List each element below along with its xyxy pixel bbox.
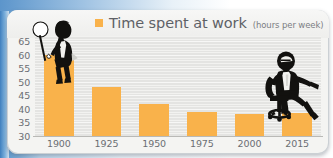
y-axis-tick-label: 65 <box>18 36 30 47</box>
x-axis-tick-label: 2000 <box>238 138 262 149</box>
seated-man-with-lamp-icon <box>31 17 93 93</box>
legend-units: (hours per week) <box>253 20 324 30</box>
y-axis-tick-label: 55 <box>18 63 30 74</box>
businessman-in-office-chair-icon <box>259 50 327 126</box>
x-axis-line <box>33 136 323 137</box>
x-axis-tick-label: 1925 <box>95 138 119 149</box>
y-axis-tick-label: 50 <box>18 76 30 87</box>
x-axis: 190019251950197520002015 <box>35 138 321 154</box>
bar-1975 <box>187 112 217 136</box>
y-axis-tick-label: 35 <box>18 117 30 128</box>
y-axis: 3035404550556065 <box>7 36 33 136</box>
bar-1950 <box>139 104 169 136</box>
bar-1925 <box>92 87 122 136</box>
legend-swatch-icon <box>95 19 103 27</box>
chart-legend: Time spent at work (hours per week) <box>95 15 324 31</box>
chart-image: Time spent at work (hours per week) 3035… <box>0 0 333 158</box>
x-axis-tick-label: 1900 <box>47 138 71 149</box>
chart-card: Time spent at work (hours per week) 3035… <box>7 10 329 154</box>
y-axis-tick-label: 40 <box>18 103 30 114</box>
legend-label: Time spent at work <box>109 15 247 31</box>
y-axis-tick-label: 30 <box>18 131 30 142</box>
x-axis-tick-label: 2015 <box>285 138 309 149</box>
x-axis-tick-label: 1950 <box>142 138 166 149</box>
y-axis-tick-label: 45 <box>18 90 30 101</box>
y-axis-tick-label: 60 <box>18 49 30 60</box>
x-axis-tick-label: 1975 <box>190 138 214 149</box>
